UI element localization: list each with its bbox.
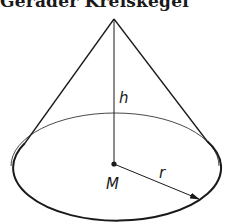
slant-edge-right: [114, 19, 207, 141]
cone-diagram: h M r: [0, 0, 233, 223]
radius-label: r: [159, 164, 166, 182]
height-label: h: [119, 89, 129, 107]
center-label: M: [106, 175, 119, 193]
radius-arrow: [114, 164, 199, 199]
base-ellipse-back: [11, 113, 219, 166]
center-point: [111, 161, 116, 166]
slant-edge-left: [25, 19, 114, 143]
